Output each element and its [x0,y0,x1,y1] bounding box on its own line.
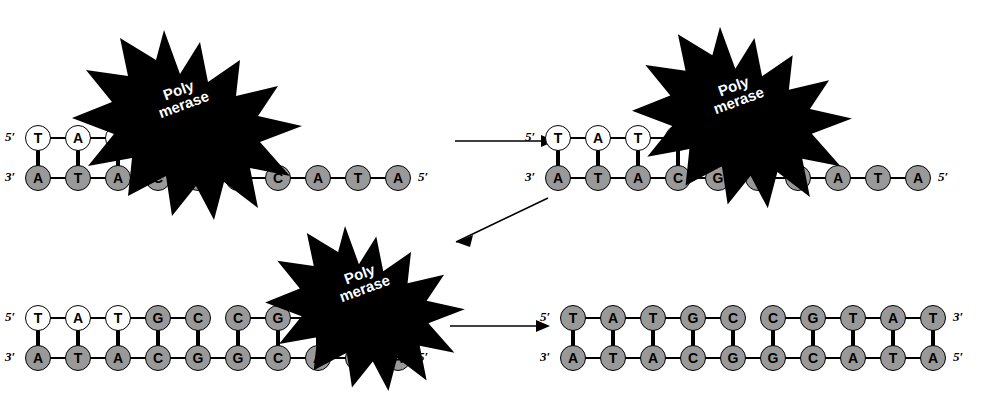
polymerase-burst-icon [72,30,302,220]
nucleotide-t: T [880,345,906,371]
nucleotide-t: T [865,165,891,191]
nucleotide-g: G [665,125,691,151]
arrow-panel1-to-panel2 [455,130,555,152]
nucleotide-a: A [25,345,51,371]
nucleotide-a: A [105,165,131,191]
top-strand-5prime-label: 5′ [5,129,15,145]
nucleotide-g: G [680,305,706,331]
nucleotide-a: A [385,165,411,191]
nucleotide-g: G [185,165,211,191]
nucleotide-g: G [720,345,746,371]
nucleotide-g: G [185,345,211,371]
nucleotide-g: G [265,305,291,331]
nucleotide-c: C [225,305,251,331]
nucleotide-c: C [785,165,811,191]
nucleotide-t: T [25,125,51,151]
nucleotide-t: T [600,345,626,371]
nucleotide-a: A [600,305,626,331]
nucleotide-a: A [920,345,946,371]
nucleotide-a: A [825,165,851,191]
nucleotide-a: A [105,345,131,371]
polymerase-label: Poly merase [124,64,238,130]
nucleotide-t: T [640,305,666,331]
nucleotide-a: A [880,305,906,331]
nucleotide-t: T [105,305,131,331]
polymerase-label: Poly merase [682,61,790,125]
nucleotide-c: C [145,165,171,191]
nucleotide-c: C [800,345,826,371]
nucleotide-t: T [920,305,946,331]
top-strand-5prime-label: 5′ [525,129,535,145]
panel-1-initial-primer-template: ATACGGCATATAT5′3′3′5′ Poly merase [0,110,440,200]
nucleotide-a: A [640,345,666,371]
nucleotide-a: A [560,345,586,371]
nucleotide-a: A [385,345,411,371]
nucleotide-a: A [305,345,331,371]
nucleotide-a: A [545,165,571,191]
nucleotide-t: T [585,165,611,191]
nucleotide-t: T [25,305,51,331]
nucleotide-t: T [65,165,91,191]
nucleotide-c: C [265,345,291,371]
polymerase-label: Poly merase [310,250,414,312]
nucleotide-g: G [800,305,826,331]
top-strand-5prime-label: 5′ [5,309,15,325]
bottom-strand-3prime-label: 3′ [5,169,15,185]
nucleotide-g: G [225,345,251,371]
nucleotide-t: T [105,125,131,151]
nucleotide-c: C [185,305,211,331]
panel-4-completed-duplex: ATACGGCATATATGCCGTAT5′3′3′5′ [535,290,991,380]
bottom-strand-5prime-label: 5′ [953,349,963,365]
bottom-strand-5prime-label: 5′ [418,169,428,185]
nucleotide-t: T [345,165,371,191]
nucleotide-g: G [705,165,731,191]
nucleotide-a: A [65,125,91,151]
bottom-strand-3prime-label: 3′ [5,349,15,365]
polymerase-replication-diagram: ATACGGCATATAT5′3′3′5′ Poly merase ATACGG… [0,0,991,401]
nucleotide-c: C [145,345,171,371]
nucleotide-t: T [840,305,866,331]
nucleotide-t: T [545,125,571,151]
nucleotide-a: A [840,345,866,371]
nucleotide-c: C [680,345,706,371]
nucleotide-a: A [305,165,331,191]
nucleotide-a: A [65,305,91,331]
nucleotide-a: A [585,125,611,151]
nucleotide-t: T [625,125,651,151]
top-strand-3prime-label: 3′ [138,149,148,165]
nucleotide-g: G [760,345,786,371]
nucleotide-c: C [665,165,691,191]
bottom-strand-5prime-label: 5′ [938,169,948,185]
nucleotide-c: C [720,305,746,331]
top-strand-3prime-label: 3′ [698,149,708,165]
top-strand-3prime-label: 3′ [338,329,348,345]
top-strand-5prime-label: 5′ [540,309,550,325]
nucleotide-t: T [345,345,371,371]
panel-3-extension-in-progress: ATACGGCATATATGCCGT5′3′3′5′ Poly merase [0,290,440,380]
bottom-strand-3prime-label: 3′ [540,349,550,365]
nucleotide-t: T [560,305,586,331]
nucleotide-g: G [145,305,171,331]
nucleotide-t: T [65,345,91,371]
nucleotide-a: A [905,165,931,191]
arrow-panel2-to-panel3 [440,196,550,252]
arrow-panel3-to-panel4 [450,315,550,337]
bottom-strand-3prime-label: 3′ [525,169,535,185]
nucleotide-a: A [25,165,51,191]
nucleotide-g: G [225,165,251,191]
nucleotide-a: A [625,165,651,191]
nucleotide-c: C [760,305,786,331]
nucleotide-g: G [745,165,771,191]
nucleotide-c: C [265,165,291,191]
bottom-strand-5prime-label: 5′ [418,349,428,365]
top-strand-3prime-label: 3′ [953,309,963,325]
panel-2-one-base-added: ATACGGCATATATG5′3′3′5′ Poly merase [520,110,980,200]
